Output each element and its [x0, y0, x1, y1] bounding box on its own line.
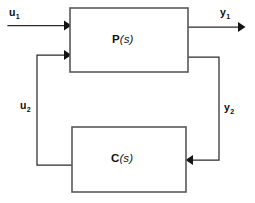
controller-label-arg: (s)	[119, 152, 133, 164]
arrowhead-y1-output	[238, 22, 246, 32]
signal-label-u1: u1	[9, 6, 20, 18]
wire-controller-to-plant-u2	[37, 50, 72, 165]
block-diagram-graphics	[0, 0, 255, 203]
signal-label-y2: y2	[224, 101, 234, 113]
signal-u2-base: u	[20, 99, 27, 111]
plant-label-name: P	[112, 33, 120, 45]
signal-y1-subscript: 1	[226, 13, 230, 20]
signal-u1-base: u	[9, 6, 16, 18]
plant-block-label: P(s)	[112, 33, 134, 45]
signal-label-y1: y1	[220, 6, 230, 18]
wire-u1-into-plant	[8, 21, 72, 31]
signal-u2-subscript: 2	[27, 106, 31, 113]
wire-plant-to-controller-y2	[186, 57, 220, 165]
signal-y2-subscript: 2	[230, 108, 234, 115]
signal-label-u2: u2	[20, 99, 31, 111]
block-diagram-canvas: P(s) C(s) u1 y1 u2 y2	[0, 0, 255, 203]
wire-plant-to-y1	[188, 22, 246, 32]
plant-label-arg: (s)	[120, 33, 134, 45]
controller-block-label: C(s)	[111, 152, 133, 164]
signal-u1-subscript: 1	[16, 13, 20, 20]
